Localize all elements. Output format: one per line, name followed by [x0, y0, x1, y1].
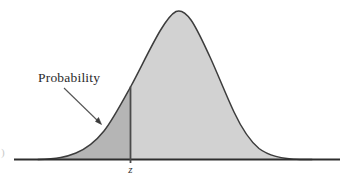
right-shaded-region — [131, 11, 313, 160]
probability-label: Probability — [38, 70, 100, 85]
distribution-chart-svg: Probability z ) — [0, 0, 352, 182]
figure-container: Probability z ) — [0, 0, 352, 182]
edge-fragment-glyph: ) — [1, 146, 5, 159]
z-axis-label: z — [127, 163, 133, 175]
probability-leader-arrow — [64, 88, 102, 125]
